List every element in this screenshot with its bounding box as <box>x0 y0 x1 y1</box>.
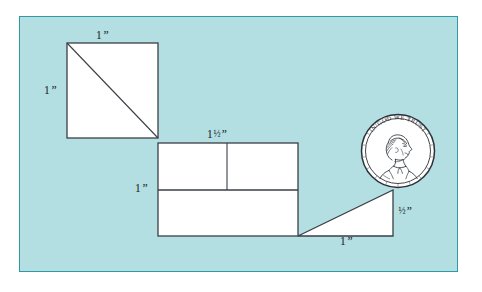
dimension-label-middle-top: 1½” <box>207 129 227 141</box>
triangle-shape <box>298 190 393 236</box>
dimension-unit: ” <box>406 205 412 217</box>
figure-drawing: IN GOD WE TRUST <box>0 0 482 292</box>
dimension-label-middle-left: 1” <box>135 183 148 195</box>
dimension-unit: ” <box>102 29 108 41</box>
penny-coin: IN GOD WE TRUST <box>362 114 435 187</box>
square-shape <box>67 43 158 138</box>
dimension-unit: ” <box>346 235 352 247</box>
dimension-unit: ” <box>221 128 227 140</box>
triangle-outline <box>298 190 393 236</box>
dimension-label-square-left: 1” <box>44 85 57 97</box>
middle-rectangle-shape <box>158 143 298 236</box>
dimension-unit: ” <box>50 84 56 96</box>
dimension-fraction: ½ <box>213 129 221 139</box>
dimension-fraction: ½ <box>398 206 406 216</box>
dimension-label-triangle-bottom: 1” <box>340 236 353 248</box>
dimension-unit: ” <box>141 182 147 194</box>
figure-root: IN GOD WE TRUST <box>0 0 482 292</box>
dimension-label-triangle-right: ½” <box>398 206 412 218</box>
dimension-label-square-top: 1” <box>96 30 109 42</box>
